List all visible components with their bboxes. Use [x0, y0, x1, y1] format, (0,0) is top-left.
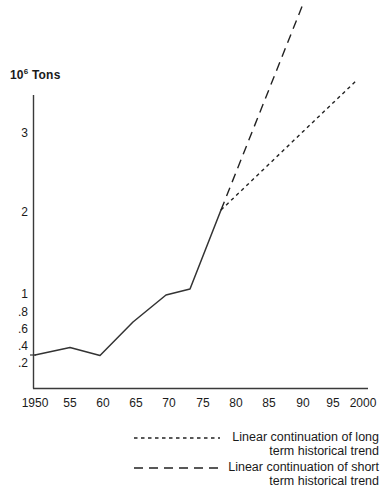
- long-term-projection-line: [221, 80, 357, 210]
- legend-swatch-dashed: [134, 460, 220, 474]
- legend-label-short-term-line1: Linear continuation of short: [228, 460, 379, 474]
- historical-data-line: [35, 210, 221, 356]
- y-tick-label-2: 2: [6, 205, 28, 219]
- legend-entry-short-term: Linear continuation of short term histor…: [134, 460, 379, 488]
- y-tick-label-3: 3: [6, 126, 28, 140]
- legend-label-long-term-line1: Linear continuation of long: [232, 430, 379, 444]
- legend-label-long-term: Linear continuation of long term histori…: [220, 430, 379, 458]
- y-tick-label-0.6: .6: [6, 322, 28, 336]
- short-term-projection-line: [221, 4, 303, 210]
- legend-label-short-term-line2: term historical trend: [224, 474, 379, 488]
- legend-label-long-term-line2: term historical trend: [224, 444, 379, 458]
- legend-swatch-dotted: [134, 430, 220, 444]
- x-tick-label-2000: 2000: [341, 396, 384, 410]
- chart-legend: Linear continuation of long term histori…: [134, 430, 379, 490]
- legend-label-short-term: Linear continuation of short term histor…: [220, 460, 379, 488]
- x-tick-label-85: 85: [250, 396, 288, 410]
- y-tick-label-0.2: .2: [6, 356, 28, 370]
- y-tick-label-0.4: .4: [6, 339, 28, 353]
- x-tick-label-70: 70: [150, 396, 188, 410]
- legend-entry-long-term: Linear continuation of long term histori…: [134, 430, 379, 458]
- y-tick-label-1: 1: [6, 287, 28, 301]
- y-tick-label-0.8: .8: [6, 305, 28, 319]
